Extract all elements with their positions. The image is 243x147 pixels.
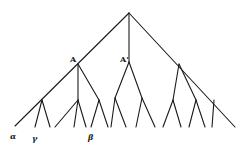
label-a-prime: A'	[119, 54, 129, 64]
subtree-a-prime	[111, 62, 155, 127]
label-beta: β	[87, 132, 94, 142]
tree-diagram: A A' α γ β	[0, 0, 243, 147]
label-alpha: α	[10, 131, 16, 141]
label-gamma: γ	[32, 133, 38, 143]
root-edges	[15, 13, 235, 127]
label-a: A	[69, 54, 77, 64]
